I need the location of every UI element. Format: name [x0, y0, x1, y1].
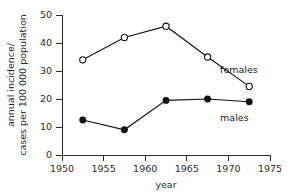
incidence-line-chart: 01020304050 195019551960196519701975 fem…	[0, 0, 300, 196]
y-tick-label: 10	[40, 121, 52, 132]
y-tick-label: 50	[40, 9, 52, 20]
series-label-females: females	[220, 64, 258, 75]
x-axis-title: year	[155, 179, 176, 190]
x-tick-label: 1975	[258, 163, 282, 174]
data-point-females-4	[246, 83, 252, 89]
data-point-males-0	[80, 117, 86, 123]
series-line-females	[83, 26, 249, 86]
chart-container: 01020304050 195019551960196519701975 fem…	[0, 0, 300, 196]
x-axis-tick-marks	[62, 155, 270, 161]
x-axis-tick-labels: 195019551960196519701975	[50, 163, 282, 174]
x-tick-label: 1970	[216, 163, 240, 174]
y-tick-label: 40	[40, 37, 52, 48]
y-axis-title-line1: annual incidence/	[5, 42, 16, 127]
data-point-females-1	[121, 34, 127, 40]
series-label-layer: femalesmales	[220, 64, 258, 123]
x-axis-group: 195019551960196519701975	[50, 155, 282, 174]
data-point-females-0	[80, 57, 86, 63]
y-axis-tick-marks	[56, 15, 62, 155]
data-point-females-2	[163, 23, 169, 29]
data-point-males-2	[163, 98, 169, 104]
series-females	[80, 23, 253, 89]
x-tick-label: 1950	[50, 163, 74, 174]
y-tick-label: 20	[40, 93, 52, 104]
data-point-males-1	[122, 127, 128, 133]
data-point-females-3	[205, 54, 211, 60]
y-axis-title-line2: cases per 100 000 population	[17, 14, 28, 155]
x-tick-label: 1965	[175, 163, 199, 174]
series-label-males: males	[220, 112, 249, 123]
x-tick-label: 1955	[92, 163, 116, 174]
y-axis-group: 01020304050	[40, 9, 62, 160]
y-axis-tick-labels: 01020304050	[40, 9, 52, 160]
data-point-males-3	[205, 96, 211, 102]
data-point-males-4	[246, 99, 252, 105]
y-tick-label: 30	[40, 65, 52, 76]
y-tick-label: 0	[46, 149, 52, 160]
x-tick-label: 1960	[133, 163, 157, 174]
